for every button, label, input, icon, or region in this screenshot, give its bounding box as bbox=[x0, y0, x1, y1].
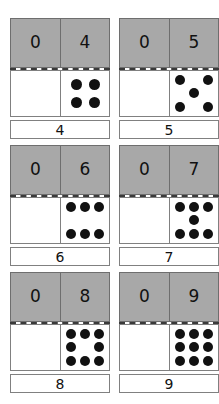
pip-dot bbox=[94, 229, 104, 239]
addition-card: 066 bbox=[10, 145, 110, 266]
pip-dot bbox=[80, 229, 90, 239]
pip-slot bbox=[67, 76, 85, 94]
pip-dot bbox=[94, 329, 104, 339]
pip-slot bbox=[201, 328, 215, 341]
dice-row bbox=[119, 324, 219, 372]
right-dice-face bbox=[169, 324, 219, 372]
pip-layout bbox=[170, 198, 218, 244]
pip-dot bbox=[203, 229, 213, 239]
right-dice-face bbox=[60, 197, 110, 245]
addition-card: 099 bbox=[119, 272, 219, 393]
left-dice-face bbox=[119, 197, 169, 245]
pip-dot bbox=[175, 75, 185, 85]
right-dice-face bbox=[169, 70, 219, 118]
pip-slot bbox=[201, 354, 215, 367]
pip-dot bbox=[189, 329, 199, 339]
addend-row: 04 bbox=[10, 18, 110, 68]
pip-slot bbox=[187, 74, 201, 87]
addend-row: 08 bbox=[10, 272, 110, 322]
left-dice-face bbox=[10, 324, 60, 372]
pip-slot bbox=[187, 201, 201, 214]
pip-slot bbox=[92, 328, 106, 341]
pip-slot bbox=[92, 354, 106, 367]
left-dice-face bbox=[10, 70, 60, 118]
pip-dot bbox=[203, 202, 213, 212]
pip-slot bbox=[201, 74, 215, 87]
pip-slot bbox=[92, 214, 106, 227]
pip-layout bbox=[170, 71, 218, 117]
right-dice-face bbox=[169, 197, 219, 245]
pip-dot bbox=[189, 202, 199, 212]
addition-card: 044 bbox=[10, 18, 110, 139]
left-addend: 0 bbox=[119, 18, 169, 68]
pip-slot bbox=[85, 76, 103, 94]
dice-row bbox=[10, 197, 110, 245]
left-addend: 0 bbox=[10, 272, 60, 322]
sum-total: 6 bbox=[10, 247, 110, 266]
pip-slot bbox=[201, 201, 215, 214]
pip-slot bbox=[187, 354, 201, 367]
pip-slot bbox=[64, 214, 78, 227]
right-dice-face bbox=[60, 70, 110, 118]
pip-slot bbox=[173, 74, 187, 87]
pip-slot bbox=[173, 354, 187, 367]
pip-slot bbox=[173, 201, 187, 214]
pip-slot bbox=[64, 227, 78, 240]
pip-slot bbox=[78, 354, 92, 367]
pip-dot bbox=[66, 202, 76, 212]
sum-total: 5 bbox=[119, 120, 219, 139]
pip-slot bbox=[78, 341, 92, 354]
pip-dot bbox=[189, 342, 199, 352]
pip-dot bbox=[203, 342, 213, 352]
pip-slot bbox=[92, 341, 106, 354]
addition-card: 088 bbox=[10, 272, 110, 393]
pip-layout bbox=[61, 325, 109, 371]
addend-row: 06 bbox=[10, 145, 110, 195]
addition-card: 055 bbox=[119, 18, 219, 139]
left-dice-face bbox=[10, 197, 60, 245]
pip-layout bbox=[61, 198, 109, 244]
pip-slot bbox=[92, 201, 106, 214]
pip-dot bbox=[175, 342, 185, 352]
pip-dot bbox=[94, 356, 104, 366]
pip-dot bbox=[175, 202, 185, 212]
pip-dot bbox=[80, 202, 90, 212]
pip-slot bbox=[92, 227, 106, 240]
pip-slot bbox=[187, 341, 201, 354]
addition-card-grid: 044055066077088099 bbox=[0, 0, 219, 393]
pip-dot bbox=[189, 356, 199, 366]
pip-slot bbox=[187, 214, 201, 227]
pip-dot bbox=[94, 202, 104, 212]
pip-dot bbox=[203, 356, 213, 366]
pip-dot bbox=[66, 356, 76, 366]
left-addend: 0 bbox=[10, 18, 60, 68]
pip-slot bbox=[201, 87, 215, 100]
pip-slot bbox=[78, 214, 92, 227]
right-addend: 6 bbox=[60, 145, 110, 195]
pip-dot bbox=[71, 79, 82, 90]
sum-total: 9 bbox=[119, 374, 219, 393]
right-addend: 8 bbox=[60, 272, 110, 322]
pip-slot bbox=[173, 87, 187, 100]
sum-total: 7 bbox=[119, 247, 219, 266]
pip-slot bbox=[173, 227, 187, 240]
addition-card: 077 bbox=[119, 145, 219, 266]
right-addend: 7 bbox=[169, 145, 219, 195]
left-dice-face bbox=[119, 324, 169, 372]
pip-slot bbox=[187, 227, 201, 240]
pip-dot bbox=[175, 102, 185, 112]
pip-dot bbox=[66, 229, 76, 239]
pip-dot bbox=[175, 229, 185, 239]
pip-dot bbox=[71, 97, 82, 108]
pip-slot bbox=[187, 328, 201, 341]
pip-dot bbox=[66, 329, 76, 339]
addend-row: 09 bbox=[119, 272, 219, 322]
pip-slot bbox=[201, 214, 215, 227]
pip-dot bbox=[189, 88, 199, 98]
addend-row: 07 bbox=[119, 145, 219, 195]
pip-slot bbox=[67, 93, 85, 111]
dice-row bbox=[10, 70, 110, 118]
pip-dot bbox=[80, 356, 90, 366]
pip-dot bbox=[66, 342, 76, 352]
pip-slot bbox=[173, 214, 187, 227]
